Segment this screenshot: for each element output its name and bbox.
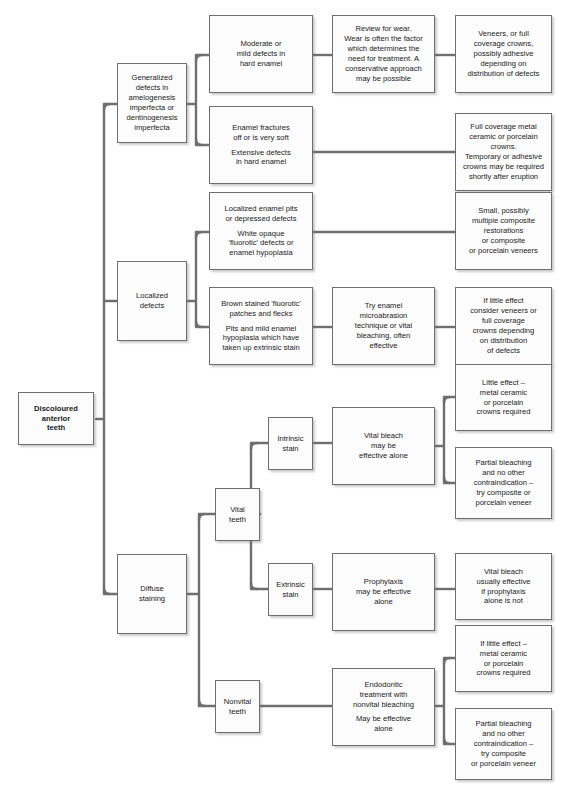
node-diffuse-staining: Diffuse staining	[117, 554, 187, 634]
node-localized-defects: Localized defects	[117, 261, 187, 341]
node-text: Moderate or mild defects in hard enamel	[213, 39, 309, 69]
node-if-little-effect-metal-ceramic: If little effect – metal ceramic or porc…	[455, 625, 552, 692]
node-try-enamel-microabrasion: Try enamel microabrasion technique or vi…	[332, 287, 435, 365]
node-text: Vital bleach usually effective if prophy…	[459, 567, 548, 606]
node-intrinsic-stain: Intrinsic stain	[268, 417, 313, 470]
node-text: Pits and mild enamel hypoplasia which ha…	[213, 324, 309, 354]
node-text: Small, possibly multiple composite resto…	[459, 206, 548, 255]
node-extrinsic-stain: Extrinsic stain	[268, 563, 313, 616]
node-text: Localized defects	[121, 291, 183, 311]
connector-elbow	[196, 139, 202, 145]
node-nonvital-teeth: Nonvital teeth	[215, 680, 260, 733]
connector-elbow	[199, 514, 205, 520]
connector-diffuse-to-vital-nonvital	[187, 514, 215, 706]
node-vital-bleach-effective-alone: Vital bleach may be effective alone	[332, 407, 435, 485]
connector-elbow	[104, 588, 110, 594]
connector-elbow	[251, 443, 257, 449]
node-text: Veneers, or full coverage crowns, possib…	[459, 29, 548, 78]
node-text: If little effect – metal ceramic or porc…	[459, 639, 548, 678]
connector-elbow	[444, 658, 450, 664]
node-text: Discoloured anterior teeth	[22, 404, 90, 434]
connector-root-to-branches	[96, 104, 117, 594]
connector-endodontic-to-outcomes	[435, 658, 455, 744]
node-text: Extensive defects in hard enamel	[213, 148, 309, 168]
node-text: Full coverage metal ceramic or porcelain…	[459, 122, 548, 181]
node-text: Partial bleaching and no other contraind…	[459, 458, 548, 507]
node-if-little-effect-consider-veneers: If little effect consider veneers or ful…	[455, 287, 552, 365]
node-little-effect-metal-ceramic: Little effect – metal ceramic or porcela…	[455, 364, 552, 431]
node-text: Localized enamel pits or depressed defec…	[213, 204, 309, 224]
node-text: Partial bleaching and no other contraind…	[459, 719, 548, 768]
connector-elbow	[251, 583, 257, 589]
connector-localized-to-children	[187, 232, 209, 327]
connector-elbow	[444, 477, 450, 483]
connector-generalized-to-children	[187, 55, 209, 145]
node-vital-teeth: Vital teeth	[215, 488, 260, 541]
node-partial-bleaching-no-contraindication: Partial bleaching and no other contraind…	[455, 447, 552, 519]
node-text: Generalized defects in amelogenesis impe…	[121, 73, 183, 132]
node-text: Extrinsic stain	[272, 580, 309, 600]
node-vital-bleach-usually-effective: Vital bleach usually effective if prophy…	[455, 553, 552, 620]
node-enamel-fractures: Enamel fractures off or is very softExte…	[209, 106, 313, 184]
node-text: Intrinsic stain	[272, 434, 309, 454]
node-prophylaxis-effective-alone: Prophylaxis may be effective alone	[332, 553, 435, 631]
node-text: Enamel fractures off or is very soft	[213, 123, 309, 143]
node-endodontic-nonvital-bleaching: Endodontic treatment with nonvital bleac…	[332, 668, 435, 746]
node-text: Prophylaxis may be effective alone	[336, 577, 431, 607]
node-text: Vital bleach may be effective alone	[336, 431, 431, 461]
node-full-coverage-metal-ceramic: Full coverage metal ceramic or porcelain…	[455, 113, 552, 191]
node-review-for-wear: Review for wear. Wear is often the facto…	[332, 15, 435, 93]
connector-elbow	[199, 700, 205, 706]
connector-elbow	[444, 738, 450, 744]
node-text: Review for wear. Wear is often the facto…	[336, 24, 431, 83]
node-brown-stained-fluorotic-patches: Brown stained 'fluorotic' patches and fl…	[209, 287, 313, 365]
connector-elbow	[104, 104, 110, 110]
node-text: Vital teeth	[219, 505, 256, 525]
node-text: Diffuse staining	[121, 584, 183, 604]
node-discoloured-anterior-teeth: Discoloured anterior teeth	[18, 392, 94, 445]
node-veneers-or-full-coverage-crowns: Veneers, or full coverage crowns, possib…	[455, 15, 552, 93]
node-text: Endodontic treatment with nonvital bleac…	[336, 680, 431, 710]
node-text: White opaque 'fluorotic' defects or enam…	[213, 229, 309, 259]
node-partial-bleaching-no-contraindication-2: Partial bleaching and no other contraind…	[455, 708, 552, 780]
node-text: Nonvital teeth	[219, 697, 256, 717]
node-text: If little effect consider veneers or ful…	[459, 296, 548, 355]
node-text: Brown stained 'fluorotic' patches and fl…	[213, 299, 309, 319]
node-localized-enamel-pits: Localized enamel pits or depressed defec…	[209, 192, 313, 270]
node-generalized-defects: Generalized defects in amelogenesis impe…	[117, 63, 187, 143]
node-small-composite-restorations: Small, possibly multiple composite resto…	[455, 192, 552, 270]
connector-elbow	[196, 232, 202, 238]
node-text: May be effective alone	[336, 714, 431, 734]
flowchart-canvas: Discoloured anterior teethGeneralized de…	[0, 0, 566, 801]
node-moderate-mild-defects: Moderate or mild defects in hard enamel	[209, 15, 313, 93]
connector-elbow	[444, 397, 450, 403]
connector-vitalbleach-to-outcomes	[435, 397, 455, 483]
connector-elbow	[196, 55, 202, 61]
node-text: Little effect – metal ceramic or porcela…	[459, 378, 548, 417]
node-text: Try enamel microabrasion technique or vi…	[336, 301, 431, 350]
connector-elbow	[196, 321, 202, 327]
